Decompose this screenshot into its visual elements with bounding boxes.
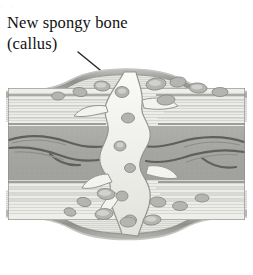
fracture-healing-illustration xyxy=(6,62,247,258)
callus-label-line-1: New spongy bone xyxy=(7,12,187,33)
callus-label-line-2: (callus) xyxy=(7,33,187,54)
callus-label: New spongy bone (callus) xyxy=(7,12,187,54)
figure-root: · · New spongy bone (callus) xyxy=(0,0,253,275)
cropped-text-remnant: · · xyxy=(0,0,253,9)
